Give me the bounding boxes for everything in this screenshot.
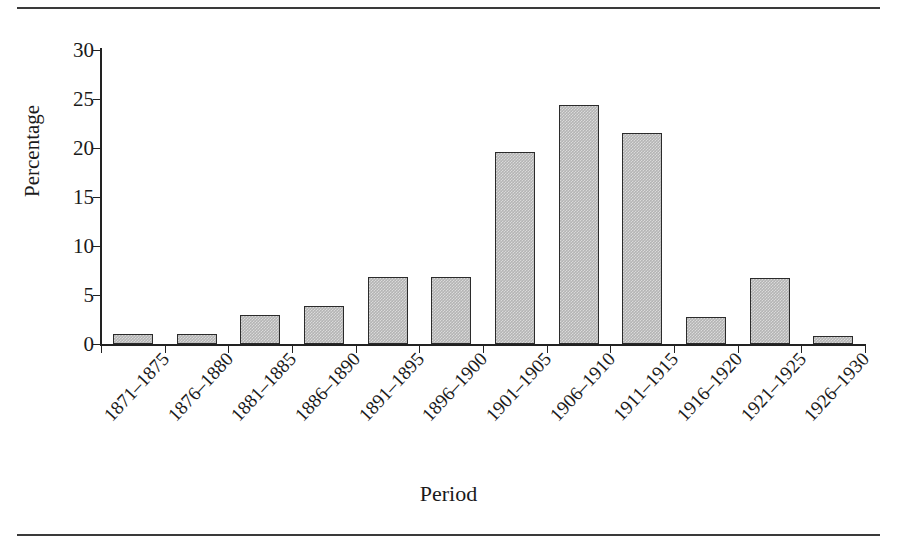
y-tick-label: 15 xyxy=(73,187,94,208)
y-tick-label: 30 xyxy=(73,40,94,61)
y-tick-label: 10 xyxy=(73,236,94,257)
bar xyxy=(113,334,153,344)
x-tick-label-text: 1911–1915 xyxy=(610,349,682,424)
x-tick-label-text: 1886–1890 xyxy=(291,349,363,424)
x-tick-label-text: 1876–1880 xyxy=(164,349,236,424)
y-tick-label: 5 xyxy=(84,285,95,306)
x-tick-label-text: 1916–1920 xyxy=(673,349,745,424)
y-axis-title: Percentage xyxy=(22,105,43,197)
x-tick-label-text: 1881–1885 xyxy=(227,349,299,424)
x-tick-mark xyxy=(101,344,102,353)
y-tick-label: 20 xyxy=(73,138,94,159)
page-rule-top xyxy=(17,7,880,9)
x-tick-label-text: 1871–1875 xyxy=(100,349,172,424)
y-tick-mark xyxy=(93,99,101,100)
x-tick-label-text: 1926–1930 xyxy=(800,349,872,424)
y-tick-mark xyxy=(93,344,101,345)
y-tick-mark xyxy=(93,197,101,198)
x-tick-label-text: 1891–1895 xyxy=(355,349,427,424)
y-tick-mark xyxy=(93,246,101,247)
x-tick-label-text: 1921–1925 xyxy=(737,349,809,424)
y-tick-label: 25 xyxy=(73,89,94,110)
figure-bar-chart: Percentage Period 051015202530 1871–1875… xyxy=(0,0,897,554)
y-tick-mark xyxy=(93,50,101,51)
x-tick-label-text: 1901–1905 xyxy=(482,349,554,424)
y-tick-mark xyxy=(93,295,101,296)
x-tick-label-text: 1896–1900 xyxy=(418,349,490,424)
y-tick-label: 0 xyxy=(84,334,95,355)
page-rule-bottom xyxy=(17,534,880,536)
x-tick-label-text: 1906–1910 xyxy=(546,349,618,424)
x-axis-title: Period xyxy=(0,483,897,505)
y-tick-mark xyxy=(93,148,101,149)
